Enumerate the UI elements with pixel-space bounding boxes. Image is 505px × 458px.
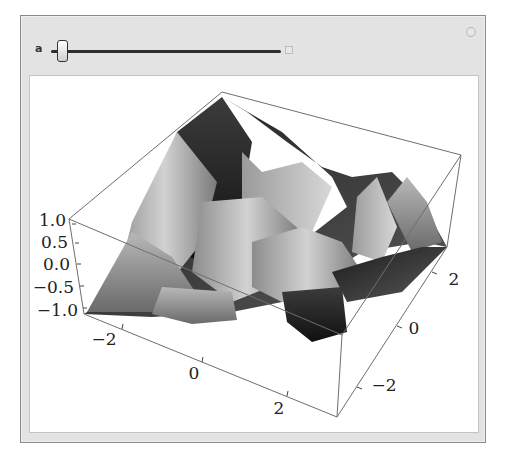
manipulate-frame: a [20, 15, 486, 443]
surface-plot-3d[interactable]: 1.0 0.5 0.0 −0.5 −1.0 −2 0 2 2 0 −2 [2, 2, 505, 458]
y-tick-label: 2 [449, 269, 460, 289]
surface [84, 97, 447, 342]
z-tick-label: −0.5 [33, 277, 74, 297]
z-axis-labels: 1.0 0.5 0.0 −0.5 −1.0 [33, 210, 78, 320]
x-tick-label: 2 [274, 398, 285, 418]
x-tick-label: −2 [91, 329, 116, 349]
z-tick-label: 1.0 [39, 210, 66, 230]
plot-panel: 1.0 0.5 0.0 −0.5 −1.0 −2 0 2 2 0 −2 [29, 75, 479, 433]
y-tick-label: −2 [371, 375, 396, 395]
x-tick-label: 0 [189, 363, 200, 383]
z-tick-label: 0.5 [41, 232, 68, 252]
z-tick-label: 0.0 [43, 254, 70, 274]
z-tick-label: −1.0 [37, 300, 78, 320]
y-tick-label: 0 [409, 318, 420, 338]
x-axis-labels: −2 0 2 [91, 329, 284, 418]
